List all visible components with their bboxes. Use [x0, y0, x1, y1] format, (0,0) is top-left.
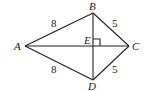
label-b: B [89, 0, 96, 12]
label-c: C [132, 40, 140, 52]
length-ad: 8 [51, 63, 57, 75]
label-d: D [87, 80, 96, 91]
right-angle-marker-icon [93, 39, 100, 46]
edge-ad [25, 46, 93, 80]
label-e: E [83, 34, 91, 46]
length-dc: 5 [112, 63, 118, 75]
edge-bc [93, 13, 129, 46]
kite-diagram: A B C D E 8 5 8 5 [0, 0, 146, 91]
edge-ab [25, 13, 93, 46]
label-a: A [13, 40, 21, 52]
length-bc: 5 [112, 17, 118, 29]
edge-dc [93, 46, 129, 80]
length-ab: 8 [51, 17, 57, 29]
